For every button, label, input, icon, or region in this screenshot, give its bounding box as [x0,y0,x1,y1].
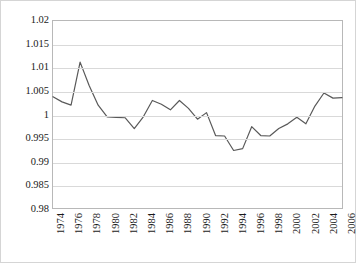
x-axis-tick-label: 2004 [329,213,340,234]
gridline-y [53,186,342,187]
x-axis-tick-label-wrap: 1998 [274,213,285,234]
y-axis-tick-label: 0.98 [1,204,54,215]
y-axis-tick-label: 0.995 [1,133,54,144]
x-axis-tick-label-wrap: 1992 [220,213,231,234]
x-axis-tick-label: 2000 [292,213,303,234]
x-axis-tick-label-wrap: 1990 [202,213,213,234]
x-axis-tick-label-wrap: 1978 [92,213,103,234]
x-axis-tick-label-wrap: 1980 [111,213,122,234]
x-axis-tick-label: 1982 [129,213,140,234]
gridline-y [53,45,342,46]
x-axis-tick-label: 1996 [256,213,267,234]
line-series-svg [53,21,342,208]
series-line-index [53,62,342,150]
x-axis-tick-label-wrap: 1994 [238,213,249,234]
x-axis-tick-label-wrap: 1988 [183,213,194,234]
y-axis-tick-label: 1 [1,109,54,120]
x-axis-tick-label: 2002 [311,213,322,234]
x-axis-tick-label: 1974 [56,213,67,234]
x-axis-tick-label-wrap: 1996 [256,213,267,234]
gridline-y [53,116,342,117]
gridline-y [53,163,342,164]
x-axis-tick-label-wrap: 1976 [74,213,85,234]
x-axis-tick-label-wrap: 2004 [329,213,340,234]
y-axis-tick-label: 1.005 [1,86,54,97]
gridline-y [53,139,342,140]
x-axis-tick-label: 1988 [183,213,194,234]
x-axis-tick-label-wrap: 1974 [56,213,67,234]
x-axis-tick-label: 1978 [92,213,103,234]
x-axis-tick-label: 1976 [74,213,85,234]
x-axis-tick-label-wrap: 1984 [147,213,158,234]
y-axis-tick-label: 1.02 [1,15,54,26]
y-axis-tick-label: 0.99 [1,157,54,168]
x-axis-tick-label: 1994 [238,213,249,234]
x-axis-tick-label: 1990 [202,213,213,234]
x-axis-tick-label-wrap: 2002 [311,213,322,234]
x-axis-tick-label: 1980 [111,213,122,234]
gridline-y [53,68,342,69]
y-axis-tick-label: 0.985 [1,180,54,191]
x-axis-tick-label-wrap: 2006 [347,213,357,234]
x-axis-tick-label-wrap: 2000 [292,213,303,234]
x-axis-tick-label: 1998 [274,213,285,234]
x-axis-tick-label: 2006 [347,213,357,234]
y-axis-tick-label: 1.015 [1,38,54,49]
x-axis-tick-label: 1984 [147,213,158,234]
plot-area [52,20,343,209]
x-axis-tick-label-wrap: 1986 [165,213,176,234]
x-axis-tick-label: 1992 [220,213,231,234]
y-axis-tick-label: 1.01 [1,62,54,73]
x-axis-tick-label-wrap: 1982 [129,213,140,234]
chart-frame: 1.021.0151.011.00510.9950.990.9850.98197… [0,0,356,263]
gridline-y [53,92,342,93]
x-axis-tick-label: 1986 [165,213,176,234]
